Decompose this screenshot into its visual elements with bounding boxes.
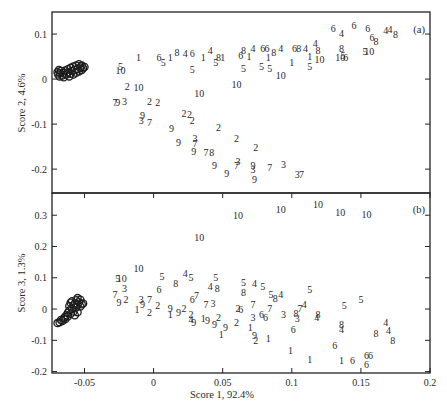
point-label: 7 [147,117,152,128]
point-label: 5 [342,300,347,311]
x-tick-label: 0.2 [424,377,437,388]
point-label: 6 [263,312,268,323]
point-label: 3 [139,115,144,126]
point-label: 1 [168,52,173,63]
point-label: 9 [224,168,229,179]
y-tick-label: 0.2 [35,241,48,252]
x-axis-label: Score 1, 92.4% [190,389,254,400]
point-label: 10 [276,70,286,81]
point-label: 8 [241,287,246,298]
point-label: 3 [281,309,286,320]
point-label: 10 [133,263,143,274]
point-label: 10 [133,82,143,93]
point-label: 10 [232,79,242,90]
point-label: 2 [253,335,258,346]
y-tick-label: -0.2 [31,366,47,377]
point-label: 10 [335,207,345,218]
point-label: 2 [216,312,221,323]
point-label: 8 [209,147,214,158]
point-label: 9 [169,123,174,134]
point-label: 10 [194,232,204,243]
x-tick-label: 0 [151,377,156,388]
point-label: 10 [233,210,243,221]
point-label: 1 [136,52,141,63]
point-label: 5 [307,284,312,295]
point-label: 7 [267,162,272,173]
point-label: 1 [288,345,293,356]
point-label: 3 [122,96,127,107]
point-label: 5 [307,61,312,72]
x-tick-label: 0.05 [214,377,232,388]
point-label: 8 [374,36,379,47]
point-label: 7 [147,294,152,305]
point-label: 4 [188,314,193,325]
point-label: 1 [201,52,206,63]
point-label: 3 [295,313,300,324]
point-label: 4 [183,268,188,279]
point-label: 4 [251,43,256,54]
pca-score-scatter-figure: 0.10-0.1-0.2 510165184614851521079322109… [0,0,447,407]
point-label: 4 [339,28,344,39]
y-tick-label: 0.1 [35,29,48,40]
panel-a-point-labels: 5101651846148515210793221093722292937297… [112,20,398,185]
point-label: 8 [393,29,398,40]
point-label: 7 [234,160,239,171]
point-label: 10 [313,199,323,210]
panel-b-point-labels: 1051054585483679239712291926773294199219… [112,199,395,370]
point-label: 8 [173,278,178,289]
point-label: 4 [208,45,213,56]
point-label: 8 [241,45,246,56]
x-tick-label: 0.1 [286,377,299,388]
panel-a-tag: (a) [413,24,425,36]
point-label: 1 [134,304,139,315]
point-label: 5 [259,61,264,72]
point-label: 8 [273,293,278,304]
point-label: 8 [215,283,220,294]
point-label: 6 [351,20,356,31]
point-label: 8 [296,43,301,54]
point-label: 9 [212,160,217,171]
point-label: 9 [191,146,196,157]
point-label: 2 [190,115,195,126]
point-label: 1 [339,355,344,366]
point-label: 4 [208,281,213,292]
point-label: 4 [278,289,283,300]
point-label: 3 [281,159,286,170]
point-label: 6 [331,23,336,34]
point-label: 5 [188,272,193,283]
point-label: 6 [190,48,195,59]
point-label: 8 [374,328,379,339]
point-label: 2 [234,133,239,144]
point-label: 3 [251,164,256,175]
point-label: 2 [181,303,186,314]
point-label: 5 [213,272,218,283]
panel-a-circle-markers [54,61,88,81]
point-label: 1 [168,309,173,320]
point-label: 8 [271,47,276,58]
point-label: 2 [181,108,186,119]
point-label: 9 [176,137,181,148]
point-label: 2 [234,317,239,328]
point-label: 1 [307,354,312,365]
point-label: 8 [316,309,321,320]
point-label: 2 [125,81,130,92]
point-label: 10 [115,65,125,76]
point-label: 9 [117,297,122,308]
point-label: 9 [252,174,257,185]
point-label: 7 [204,147,209,158]
point-label: 4 [252,278,257,289]
y-tick-label: 0.1 [35,272,48,283]
point-label: 6 [291,324,296,335]
point-label: 6 [343,52,348,63]
point-label: 2 [147,307,152,318]
point-label: 8 [175,47,180,58]
point-label: 4 [302,299,307,310]
point-label: 4 [339,324,344,335]
point-label: 6 [364,359,369,370]
panel-a: 0.10-0.1-0.2 510165184614851521079322109… [31,12,430,193]
point-label: 9 [223,322,228,333]
x-axis-tick-labels: -0.0500.050.10.150.2 [74,377,436,388]
point-label: 2 [155,97,160,108]
point-label: 4 [278,43,283,54]
point-label: 6 [350,355,355,366]
